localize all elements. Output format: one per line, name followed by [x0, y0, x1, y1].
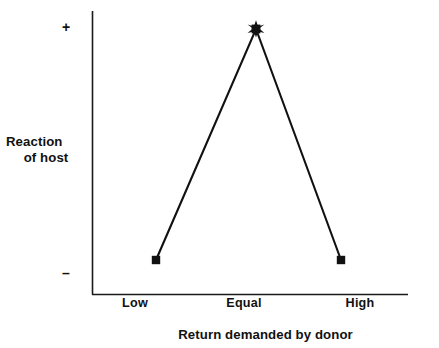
data-point-markers [152, 20, 345, 264]
y-axis-title-line-1: Reaction [6, 134, 86, 150]
x-axis-title-wrapper: Return demanded by donor [0, 328, 439, 341]
y-axis-title: Reaction of host [6, 134, 86, 166]
y-axis-title-line-2: of host [6, 150, 86, 166]
data-point-marker-high [337, 256, 345, 264]
data-series-line [156, 29, 341, 260]
x-tick-label-high: High [346, 297, 375, 310]
y-axis-positive-tick-label: + [55, 20, 77, 34]
data-point-marker-low [152, 256, 160, 264]
y-axis-negative-tick-label: – [55, 266, 77, 280]
data-point-marker-equal-spikes [248, 20, 265, 37]
x-axis-title: Return demanded by donor [178, 328, 353, 341]
x-tick-label-equal: Equal [226, 297, 261, 310]
chart-figure: + – Reaction of host Low Equal High Retu… [0, 0, 439, 348]
x-tick-label-low: Low [122, 297, 148, 310]
